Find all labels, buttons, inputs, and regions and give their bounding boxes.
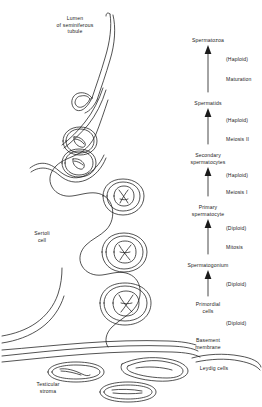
stage-label-spermatozoa: Spermatozoa — [169, 37, 247, 44]
basement-membrane-lines — [2, 341, 200, 362]
stage-label-primary-spermatocyte: Primary spermatocyte — [167, 204, 249, 217]
annotation-diploid-2: (Diploid) — [226, 281, 262, 288]
process-arrows — [205, 45, 212, 296]
arrow-spermatogonium-to-primary — [205, 219, 212, 254]
stage-label-secondary-spermatocytes: Secondary spermatocytes — [167, 152, 249, 165]
label-leydig-cells: Leydig cells — [183, 365, 245, 372]
stage-label-spermatogonium: Spermatogonium — [165, 262, 251, 269]
stage-label-spermatids: Spermatids — [169, 100, 247, 107]
annotation-haploid-3: (Haploid) — [226, 172, 262, 179]
label-testicular-stroma: Testicular stroma — [23, 381, 73, 394]
label-sertoli-cell: Sertoli cell — [17, 230, 67, 243]
spermatogenesis-diagram: Lumen of seminiferous tubule Sertoli cel… — [0, 0, 262, 407]
stage-label-primordial-cells: Primordial cells — [169, 301, 247, 314]
leydig-cell-upper — [121, 358, 188, 382]
primary-spermatocyte-cell — [102, 233, 147, 272]
primordial-cell-stroma — [48, 362, 104, 382]
spermatogonium-cell — [100, 283, 151, 325]
arrow-primary-to-secondary — [205, 167, 212, 196]
annotation-meiosis-1: Meiosis I — [226, 189, 262, 196]
label-basement-membrane: Basement membrane — [177, 337, 239, 350]
arrow-spermatids-to-spermatozoa — [205, 45, 212, 92]
annotation-meiosis-2: Meiosis II — [226, 136, 262, 143]
annotation-haploid-1: (Haploid) — [226, 56, 262, 63]
arrow-secondary-to-spermatids — [205, 108, 212, 144]
leydig-cell-lower — [100, 382, 156, 402]
label-lumen: Lumen of seminiferous tubule — [35, 15, 115, 35]
annotation-diploid-1: (Diploid) — [226, 225, 262, 232]
annotation-mitosis: Mitosis — [226, 244, 262, 251]
testicular-stroma-boundary — [2, 268, 64, 343]
annotation-diploid-3: (Diploid) — [226, 320, 262, 327]
secondary-spermatocyte-cell — [103, 179, 144, 215]
spermatozoon-lower-tail — [62, 88, 106, 148]
arrow-primordial-to-spermatogonium — [205, 270, 212, 296]
annotation-haploid-2: (Haploid) — [226, 117, 262, 124]
annotation-maturation: Maturation — [226, 76, 262, 83]
